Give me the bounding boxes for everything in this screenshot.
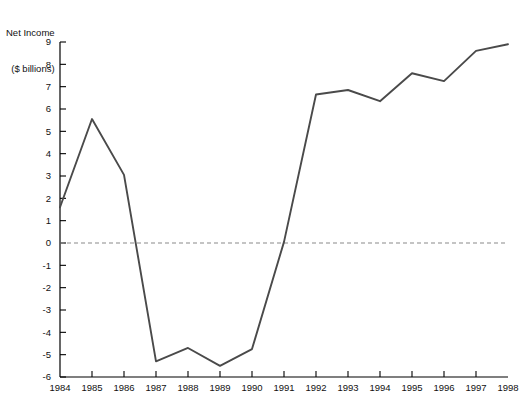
y-axis-tick-label: 4: [46, 148, 51, 159]
y-axis-tick-label: 7: [46, 81, 51, 92]
y-axis-tick-label: -6: [43, 371, 51, 382]
x-axis-tick-label: 1988: [177, 382, 198, 393]
y-axis-tick-label: 1: [46, 215, 51, 226]
x-axis-tick-label: 1995: [401, 382, 422, 393]
x-axis-tick-label: 1986: [113, 382, 134, 393]
x-axis-tick-label: 1990: [241, 382, 262, 393]
y-axis-tick-label: -5: [43, 349, 51, 360]
y-axis-tick-label: 8: [46, 59, 51, 70]
y-axis-tick-label: 0: [46, 237, 51, 248]
y-axis-tick-label: 6: [46, 103, 51, 114]
y-axis-tick-label: -4: [43, 327, 51, 338]
x-axis-tick-label: 1996: [433, 382, 454, 393]
x-axis-ticks: [92, 371, 476, 377]
y-axis-tick-label: -1: [43, 260, 51, 271]
y-axis-tick-label: 5: [46, 126, 51, 137]
x-axis-tick-label: 1992: [305, 382, 326, 393]
x-axis-tick-label: 1991: [273, 382, 294, 393]
x-axis-tick-label: 1997: [465, 382, 486, 393]
y-axis-group: 9876543210-1-2-3-4-5-6: [43, 36, 66, 382]
x-axis-tick-label: 1993: [337, 382, 358, 393]
x-axis-group: 1984198519861987198819891990199119921993…: [49, 371, 518, 393]
x-axis-tick-labels: 1984198519861987198819891990199119921993…: [49, 382, 518, 393]
x-axis-tick-label: 1989: [209, 382, 230, 393]
x-axis-tick-label: 1998: [497, 382, 518, 393]
x-axis-tick-label: 1994: [369, 382, 390, 393]
y-axis-tick-label: -3: [43, 304, 51, 315]
y-axis-ticks: [60, 42, 66, 377]
x-axis-tick-label: 1987: [145, 382, 166, 393]
x-axis-tick-label: 1985: [81, 382, 102, 393]
y-axis-tick-label: 9: [46, 36, 51, 47]
y-axis-tick-label: 3: [46, 170, 51, 181]
y-axis-tick-label: 2: [46, 193, 51, 204]
plot-svg: 9876543210-1-2-3-4-5-6 19841985198619871…: [0, 0, 525, 409]
y-axis-tick-label: -2: [43, 282, 51, 293]
y-axis-tick-labels: 9876543210-1-2-3-4-5-6: [43, 36, 51, 382]
x-axis-tick-label: 1984: [49, 382, 70, 393]
net-income-data-line: [60, 44, 508, 366]
net-income-line-chart: Net Income ($ billions) 9876543210-1-2-3…: [0, 0, 525, 409]
